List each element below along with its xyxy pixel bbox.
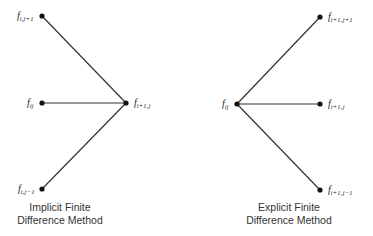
label-explicit-top: fi+1,j+1	[328, 12, 353, 22]
node-explicit-source	[234, 101, 239, 106]
caption-explicit-line2: Difference Method	[229, 214, 349, 227]
caption-implicit: Implicit Finite Difference Method	[0, 201, 120, 227]
caption-explicit-line1: Explicit Finite	[229, 201, 349, 214]
label-subscript: i+1,j−1	[331, 189, 353, 196]
node-implicit-mid	[39, 100, 44, 105]
node-implicit-top	[39, 13, 44, 18]
label-subscript: ij	[225, 103, 229, 110]
label-implicit-bottom: fi,j−1	[18, 184, 35, 194]
implicit-diagram	[39, 13, 128, 191]
label-implicit-top: fi,j+1	[17, 11, 34, 21]
label-explicit-mid: fi+1,j	[328, 99, 345, 109]
caption-implicit-line1: Implicit Finite	[0, 201, 120, 214]
label-subscript: ij	[30, 102, 34, 109]
label-explicit-source: fij	[222, 99, 229, 109]
node-implicit-bottom	[39, 186, 44, 191]
node-explicit-bottom	[317, 187, 322, 192]
node-explicit-mid	[317, 101, 322, 106]
label-subscript: i,j−1	[21, 188, 35, 195]
caption-explicit: Explicit Finite Difference Method	[229, 201, 349, 227]
caption-implicit-line2: Difference Method	[0, 214, 120, 227]
label-explicit-bottom: fi+1,j−1	[328, 185, 353, 195]
label-subscript: i+1,j+1	[331, 16, 353, 23]
label-implicit-target: fi+1,j	[134, 98, 151, 108]
edge-explicit-bottom	[237, 104, 320, 190]
edge-implicit-top	[42, 16, 126, 103]
node-explicit-top	[317, 14, 322, 19]
label-implicit-mid: fij	[27, 98, 34, 108]
edge-explicit-top	[237, 17, 320, 104]
label-subscript: i+1,j	[331, 103, 345, 110]
explicit-diagram	[234, 14, 322, 192]
label-subscript: i,j+1	[20, 15, 34, 22]
label-subscript: i+1,j	[137, 102, 151, 109]
edge-implicit-bottom	[42, 103, 126, 189]
node-implicit-target	[123, 100, 128, 105]
